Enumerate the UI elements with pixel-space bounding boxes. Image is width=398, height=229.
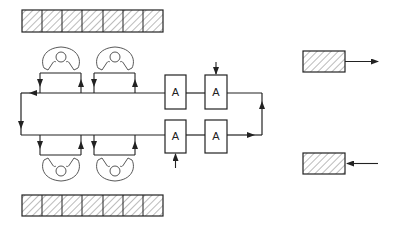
station-a-top-right: A: [205, 75, 227, 109]
worker-icon: [97, 158, 134, 181]
diagram-canvas: A A A A: [0, 0, 398, 229]
station-label: A: [172, 130, 180, 142]
station-a-bottom-right: A: [205, 120, 227, 153]
input-buffer: [303, 153, 378, 174]
workstation-branch-top-1: [40, 73, 81, 93]
worker-icon: [43, 47, 80, 70]
station-a-bottom-left: A: [165, 120, 186, 153]
worker-icon: [43, 158, 80, 181]
output-buffer: [303, 51, 378, 72]
storage-rack-bottom: [22, 195, 163, 216]
workstation-branch-top-2: [94, 73, 135, 93]
storage-rack-top: [22, 10, 163, 32]
station-a-top-left: A: [165, 75, 186, 109]
station-label: A: [212, 86, 220, 98]
station-label: A: [212, 130, 220, 142]
workstation-branch-bottom-1: [40, 135, 81, 155]
workstation-branch-bottom-2: [94, 135, 135, 155]
worker-icon: [97, 47, 134, 70]
station-label: A: [172, 86, 180, 98]
